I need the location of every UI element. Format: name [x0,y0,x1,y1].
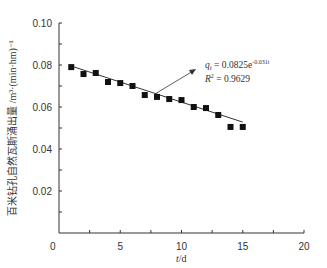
axes [59,23,304,233]
y-tick-label: 0.08 [33,60,53,71]
x-tick-label: 20 [298,241,310,252]
data-point [240,124,246,130]
data-point [93,70,99,76]
data-point [228,124,234,130]
x-axis-title: t/d [176,253,187,264]
data-point [142,92,148,98]
x-tick-label: 10 [176,241,188,252]
x-tick-label: 5 [117,241,123,252]
data-point [154,94,160,100]
data-point [68,64,74,70]
origin-label: 0 [50,241,56,252]
y-axis-title: 百米钻孔自然瓦斯涌出量 /m³·(min·hm)⁻¹ [6,40,19,216]
data-point [166,96,172,102]
chart: 0.020.040.060.080.10 5101520 0 qt = 0.08… [0,0,327,268]
data-point [105,79,111,85]
y-tick-label: 0.10 [33,18,53,29]
annotation-arrow [155,69,196,94]
data-point [81,71,87,77]
data-point [203,105,209,111]
y-ticks: 0.020.040.060.080.10 [33,18,62,213]
y-tick-label: 0.04 [33,144,53,155]
data-point [191,104,197,110]
fit-equation: qt = 0.0825e-0.031t [205,59,270,72]
data-point [215,112,221,118]
y-tick-label: 0.02 [33,186,53,197]
r-squared: R2 = 0.9629 [204,73,250,84]
data-point [117,80,123,86]
data-point [179,97,185,103]
y-tick-label: 0.06 [33,102,53,113]
data-point [130,83,136,89]
x-tick-label: 15 [237,241,249,252]
